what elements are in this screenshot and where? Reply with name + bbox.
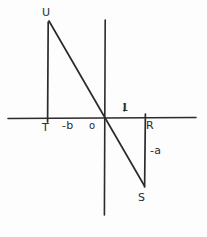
line-segment-us bbox=[49, 21, 145, 186]
point-u-label: U bbox=[42, 7, 50, 18]
point-s-label: S bbox=[138, 192, 145, 203]
point-t-label: T bbox=[42, 122, 49, 133]
hand-drawn-graph-figure: U T -b o 1 R -a S bbox=[0, 0, 207, 237]
tick-neg-b-label: -b bbox=[62, 120, 74, 131]
graph-canvas bbox=[0, 0, 207, 237]
tick-one-label: 1 bbox=[122, 103, 129, 113]
drop-line-tu bbox=[48, 22, 49, 122]
point-r-label: R bbox=[146, 120, 154, 131]
origin-label: o bbox=[89, 121, 95, 131]
x-axis bbox=[8, 118, 196, 119]
value-neg-a-label: -a bbox=[150, 145, 161, 156]
